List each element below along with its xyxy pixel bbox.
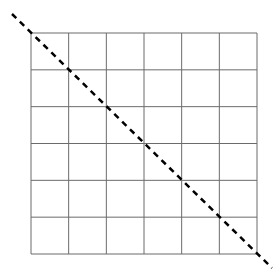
grid-diagram xyxy=(0,0,276,269)
grid-lines xyxy=(31,33,257,254)
dashed-diagonal-line xyxy=(12,14,272,268)
